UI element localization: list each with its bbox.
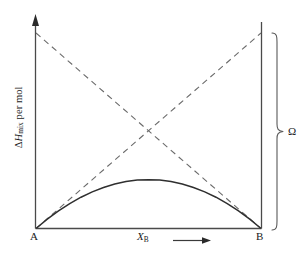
enthalpy-mixing-curve <box>36 180 261 229</box>
omega-label: Ω <box>288 125 296 137</box>
x-direction-arrow <box>173 237 211 243</box>
x-axis-label: XB <box>137 230 149 244</box>
omega-brace <box>272 33 283 230</box>
x-axis-label-subscript: B <box>144 235 149 244</box>
plot-canvas <box>0 0 306 255</box>
axis-endpoint-label-a: A <box>30 230 38 242</box>
y-axis-arrowhead <box>32 14 39 26</box>
axis-endpoint-label-b: B <box>256 230 263 242</box>
chart-figure: ΔHmix per mol XB A B Ω <box>0 0 306 255</box>
x-axis-label-symbol: X <box>137 230 144 242</box>
y-axis <box>32 14 39 229</box>
